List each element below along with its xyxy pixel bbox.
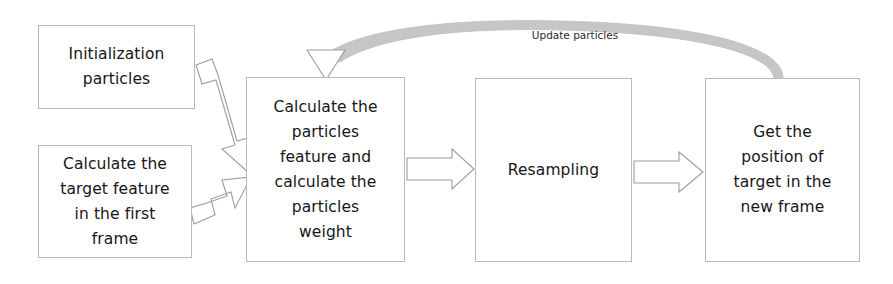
arrow-weight-to-resampling <box>407 149 474 189</box>
arrow-init-to-weight <box>196 59 251 173</box>
arrow-resampling-to-position <box>634 152 703 192</box>
node-initialization-particles: Initialization particles <box>38 25 195 109</box>
node-calculate-target-feature-label: Calculate the target feature in the firs… <box>56 152 173 252</box>
node-get-position-of-target-label: Get the position of target in the new fr… <box>730 120 836 220</box>
node-resampling: Resampling <box>475 78 632 262</box>
flowchart-diagram: Initialization particles Calculate the t… <box>0 0 893 284</box>
node-get-position-of-target: Get the position of target in the new fr… <box>705 78 860 262</box>
node-initialization-particles-label: Initialization particles <box>65 42 169 92</box>
arrow-target-to-weight <box>190 177 251 224</box>
feedback-edge-label: Update particles <box>505 29 645 42</box>
node-calculate-target-feature: Calculate the target feature in the firs… <box>38 145 192 258</box>
node-calculate-particles-weight: Calculate the particles feature and calc… <box>246 77 405 262</box>
node-calculate-particles-weight-label: Calculate the particles feature and calc… <box>269 95 381 245</box>
node-resampling-label: Resampling <box>504 158 603 183</box>
